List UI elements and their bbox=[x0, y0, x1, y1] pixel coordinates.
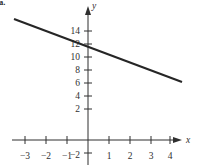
x-tick-label-neg2: −2 bbox=[41, 151, 51, 161]
y-tick-label-4: 4 bbox=[75, 91, 80, 101]
x-tick-label-neg3: −3 bbox=[20, 151, 30, 161]
y-tick-label-14: 14 bbox=[71, 26, 81, 36]
x-tick-label-2: 2 bbox=[128, 151, 133, 161]
y-tick-label-2: 2 bbox=[75, 104, 80, 114]
x-tick-labels: −3 −2 −1 1 2 3 4 bbox=[20, 151, 173, 161]
x-tick-label-1: 1 bbox=[107, 151, 112, 161]
arrow-right-icon bbox=[173, 137, 182, 143]
x-axis-label: x bbox=[185, 135, 191, 145]
figure-container: a. y x 14 12 10 8 6 bbox=[0, 0, 198, 168]
y-axis-label: y bbox=[91, 1, 97, 11]
data-line-series bbox=[14, 19, 182, 82]
x-tick-label-neg1: −1 bbox=[62, 151, 72, 161]
x-tick-label-4: 4 bbox=[168, 151, 173, 161]
y-tick-label-6: 6 bbox=[75, 78, 80, 88]
y-tick-label-8: 8 bbox=[75, 65, 80, 75]
arrow-up-icon bbox=[85, 6, 91, 15]
y-tick-label-10: 10 bbox=[71, 52, 81, 62]
coordinate-plot: y x 14 12 10 8 6 4 2 −2 bbox=[0, 0, 198, 168]
x-tick-label-3: 3 bbox=[149, 151, 154, 161]
